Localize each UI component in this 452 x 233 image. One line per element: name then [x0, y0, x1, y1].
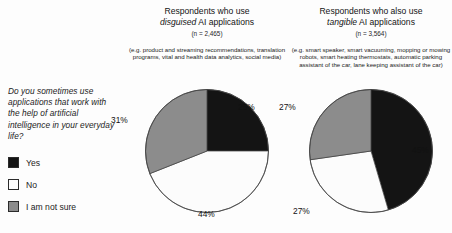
legend-item-no: No — [8, 178, 116, 191]
panel-disguised-title-line1: Respondents who use — [164, 6, 249, 16]
panel-disguised-title-emphasis: disguised — [160, 17, 196, 27]
panel-disguised-title: Respondents who use disguised AI applica… — [121, 6, 293, 28]
panel-tangible-header: Respondents who also use tangible AI app… — [285, 6, 452, 68]
legend-label-not-sure: I am not sure — [26, 202, 76, 212]
pie-tangible-label-yes: 45% — [412, 145, 429, 155]
pie-disguised-label-not-sure: 31% — [111, 115, 128, 125]
panel-disguised-title-rest: AI applications — [196, 17, 254, 27]
pie-slice-yes — [207, 90, 269, 152]
panel-tangible-title-line1: Respondents who also use — [319, 6, 422, 16]
panel-tangible-title-emphasis: tangible — [327, 17, 357, 27]
pie-chart-tangible: 45% 27% 27% — [285, 88, 452, 216]
legend-swatch-yes-icon — [8, 157, 19, 168]
figure-canvas: Do you sometimes use applications that w… — [0, 0, 452, 233]
panel-tangible-title: Respondents who also use tangible AI app… — [285, 6, 452, 28]
legend-item-yes: Yes — [8, 156, 116, 169]
pie-tangible-label-not-sure: 27% — [279, 102, 296, 112]
pie-tangible-label-no: 27% — [293, 206, 310, 216]
panel-disguised-sample-size: (n = 2,465) — [121, 29, 293, 38]
panel-disguised-examples: (e.g. product and streaming recommendati… — [121, 46, 293, 61]
legend-item-not-sure: I am not sure — [8, 200, 116, 213]
panel-tangible-sample-size: (n = 3,564) — [285, 29, 452, 38]
legend-label-yes: Yes — [26, 158, 40, 168]
legend-label-no: No — [26, 180, 37, 190]
panel-tangible-examples: (e.g. smart speaker, smart vacuuming, mo… — [285, 46, 452, 68]
legend: Yes No I am not sure — [8, 156, 116, 213]
pie-chart-disguised: 25% 31% 44% — [121, 88, 293, 216]
panel-disguised-header: Respondents who use disguised AI applica… — [121, 6, 293, 61]
legend-swatch-no-icon — [8, 179, 19, 190]
panel-tangible-title-rest: AI applications — [357, 17, 415, 27]
question-legend-block: Do you sometimes use applications that w… — [8, 86, 116, 222]
pie-disguised-label-yes: 25% — [238, 102, 255, 112]
survey-question-text: Do you sometimes use applications that w… — [8, 86, 116, 142]
pie-disguised-label-no: 44% — [198, 209, 215, 219]
legend-swatch-not-sure-icon — [8, 201, 19, 212]
pie-slice-i-am-not-sure — [310, 90, 372, 160]
